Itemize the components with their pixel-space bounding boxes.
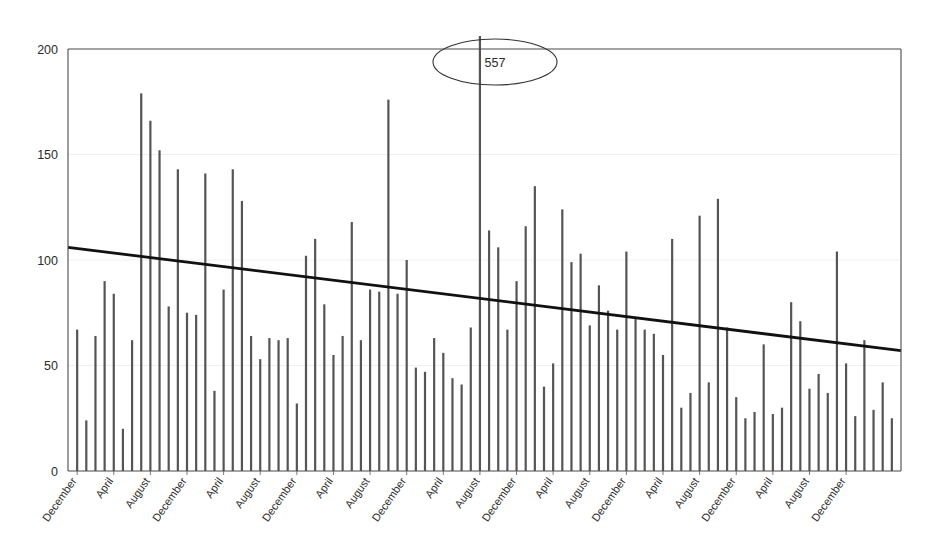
bar: [406, 260, 408, 471]
bar: [863, 340, 865, 471]
bar: [488, 230, 490, 471]
bar: [94, 336, 96, 471]
bar: [140, 93, 142, 471]
bar: [744, 418, 746, 471]
bar: [396, 294, 398, 471]
chart-background: [0, 0, 949, 552]
bar: [470, 328, 472, 471]
bar: [735, 397, 737, 471]
bar: [351, 222, 353, 471]
bar: [662, 355, 664, 471]
bar: [241, 201, 243, 471]
bar: [580, 254, 582, 471]
bar: [808, 389, 810, 471]
bar: [763, 344, 765, 471]
bar: [314, 239, 316, 471]
bar: [818, 374, 820, 471]
bar: [168, 306, 170, 471]
bar: [799, 321, 801, 471]
y-tick-label: 0: [51, 465, 58, 479]
bar: [607, 311, 609, 471]
bar: [195, 315, 197, 471]
y-tick-label: 150: [37, 148, 58, 162]
bar: [479, 36, 481, 471]
bar: [644, 330, 646, 471]
y-tick-label: 50: [44, 359, 58, 373]
bar: [259, 359, 261, 471]
bar: [158, 150, 160, 471]
bar: [653, 334, 655, 471]
bar: [882, 382, 884, 471]
bar: [589, 325, 591, 471]
bar: [287, 338, 289, 471]
bar: [277, 340, 279, 471]
bar: [122, 429, 124, 471]
bar: [223, 290, 225, 471]
bar: [891, 418, 893, 471]
bar: [689, 393, 691, 471]
bar: [708, 382, 710, 471]
bar: [552, 363, 554, 471]
bar: [515, 281, 517, 471]
bar: [625, 252, 627, 471]
bar: [332, 355, 334, 471]
bar: [634, 319, 636, 471]
bar: [323, 304, 325, 471]
bar: [872, 410, 874, 471]
bar: [131, 340, 133, 471]
bar: [433, 338, 435, 471]
bar: [186, 313, 188, 471]
bar: [699, 216, 701, 471]
bar: [424, 372, 426, 471]
bar: [149, 121, 151, 471]
bar: [232, 169, 234, 471]
bar: [296, 403, 298, 471]
bar: [113, 294, 115, 471]
bar: [726, 328, 728, 471]
bar: [369, 290, 371, 471]
bar: [305, 256, 307, 471]
bar: [561, 209, 563, 471]
annotation-label: 557: [485, 56, 506, 70]
bar: [360, 340, 362, 471]
bar: [836, 252, 838, 471]
bar: [461, 384, 463, 471]
bar: [387, 100, 389, 471]
bar: [497, 247, 499, 471]
bar: [442, 353, 444, 471]
chart-container: 050100150200 DecemberAprilAugustDecember…: [0, 0, 949, 552]
y-tick-label: 200: [37, 43, 58, 57]
bar: [680, 408, 682, 471]
bar: [506, 330, 508, 471]
bar: [213, 391, 215, 471]
bar: [534, 186, 536, 471]
bar: [104, 281, 106, 471]
bar: [671, 239, 673, 471]
bar: [753, 412, 755, 471]
bar: [717, 199, 719, 471]
bar: [772, 414, 774, 471]
bar: [854, 416, 856, 471]
bar: [268, 338, 270, 471]
bar: [76, 330, 78, 471]
bar: [781, 408, 783, 471]
bar: [378, 292, 380, 471]
bar: [790, 302, 792, 471]
bar: [177, 169, 179, 471]
bar: [85, 420, 87, 471]
bar: [342, 336, 344, 471]
bar: [451, 378, 453, 471]
bar: [616, 330, 618, 471]
bar: [543, 387, 545, 471]
bar: [250, 336, 252, 471]
bar: [525, 226, 527, 471]
bar: [570, 262, 572, 471]
bar: [827, 393, 829, 471]
bar: [845, 363, 847, 471]
bar-chart: 050100150200 DecemberAprilAugustDecember…: [0, 0, 949, 552]
y-tick-label: 100: [37, 254, 58, 268]
bar: [204, 173, 206, 471]
bar: [415, 368, 417, 471]
